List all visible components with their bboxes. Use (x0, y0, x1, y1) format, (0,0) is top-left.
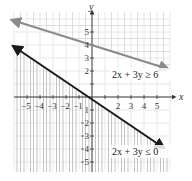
svg-text:−4: −4 (34, 101, 44, 111)
svg-text:−3: −3 (47, 101, 57, 111)
svg-text:5: 5 (85, 27, 90, 37)
svg-text:2: 2 (85, 118, 90, 128)
inequality-graph: y x −5 −4 −3 −2 −1 2 3 4 5 5 4 3 2 1 2 3… (0, 0, 192, 181)
svg-text:−5: −5 (21, 101, 31, 111)
svg-text:3: 3 (129, 101, 134, 111)
x-axis-label: x (178, 91, 184, 102)
svg-text:2: 2 (85, 66, 90, 76)
svg-text:4: 4 (142, 101, 147, 111)
line-2x-3y-6 (15, 21, 165, 68)
svg-text:−2: −2 (60, 101, 70, 111)
svg-text:3: 3 (85, 53, 90, 63)
inequality-label-top: 2x + 3y ≥ 6 (112, 69, 158, 80)
y-axis-label: y (88, 1, 94, 12)
svg-text:2: 2 (116, 101, 121, 111)
svg-text:1: 1 (85, 105, 90, 115)
inequality-label-bottom: 2x + 3y ≤ 0 (112, 146, 158, 157)
svg-text:5: 5 (85, 157, 90, 167)
svg-text:5: 5 (155, 101, 160, 111)
x-tick-labels: −5 −4 −3 −2 −1 2 3 4 5 (21, 101, 160, 111)
svg-text:4: 4 (85, 40, 90, 50)
svg-text:3: 3 (85, 131, 90, 141)
svg-text:4: 4 (85, 144, 90, 154)
svg-text:−1: −1 (73, 101, 83, 111)
